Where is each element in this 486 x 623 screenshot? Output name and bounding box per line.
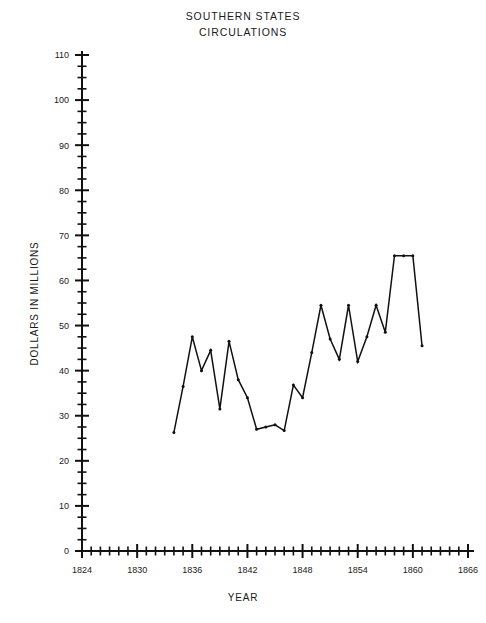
y-tick-label: 0 — [64, 546, 69, 556]
x-tick-label: 1866 — [458, 565, 478, 575]
series-point — [393, 254, 396, 257]
y-axis: 0102030405060708090100110 — [54, 50, 89, 556]
x-tick-label: 1830 — [127, 565, 147, 575]
y-tick-label: 70 — [59, 231, 69, 241]
y-tick-label: 30 — [59, 411, 69, 421]
y-tick-label: 20 — [59, 456, 69, 466]
series-point — [365, 335, 368, 338]
y-tick-label: 100 — [54, 95, 69, 105]
y-tick-label: 110 — [55, 50, 69, 60]
x-tick-label: 1842 — [237, 565, 257, 575]
series-point — [347, 304, 350, 307]
series-point — [191, 335, 194, 338]
series-point — [264, 426, 267, 429]
series-point — [292, 384, 295, 387]
y-tick-label: 80 — [59, 186, 69, 196]
series-point — [200, 369, 203, 372]
y-axis-label: DOLLARS IN MILLIONS — [29, 224, 40, 384]
y-tick-label: 50 — [59, 321, 69, 331]
series-point — [228, 340, 231, 343]
x-tick-label: 1824 — [72, 565, 92, 575]
series-point — [274, 423, 277, 426]
series-point — [411, 254, 414, 257]
chart-figure: SOUTHERN STATES CIRCULATIONS DOLLARS IN … — [0, 0, 486, 623]
series-point — [356, 360, 359, 363]
x-tick-label: 1848 — [293, 565, 313, 575]
series-point — [182, 385, 185, 388]
plot-area: 0102030405060708090100110 18241830183618… — [0, 0, 486, 623]
y-tick-label: 60 — [59, 276, 69, 286]
series-point — [338, 358, 341, 361]
y-tick-label: 40 — [59, 366, 69, 376]
series-point — [172, 431, 175, 434]
x-axis: 18241830183618421848185418601866 — [72, 544, 478, 575]
series-point — [375, 304, 378, 307]
y-tick-label: 10 — [59, 501, 69, 511]
series-point — [310, 351, 313, 354]
series-point — [209, 349, 212, 352]
x-axis-label: YEAR — [0, 592, 486, 603]
series-point — [237, 378, 240, 381]
series-point — [283, 429, 286, 432]
data-series — [172, 254, 423, 434]
x-tick-label: 1854 — [348, 565, 368, 575]
series-point — [218, 407, 221, 410]
series-point — [255, 428, 258, 431]
series-point — [421, 344, 424, 347]
series-point — [319, 304, 322, 307]
series-point — [246, 396, 249, 399]
series-point — [384, 331, 387, 334]
series-point — [301, 396, 304, 399]
x-tick-label: 1860 — [403, 565, 423, 575]
series-point — [402, 254, 405, 257]
series-polyline — [174, 256, 422, 433]
x-tick-label: 1836 — [182, 565, 202, 575]
series-point — [329, 338, 332, 341]
y-tick-label: 90 — [59, 141, 69, 151]
